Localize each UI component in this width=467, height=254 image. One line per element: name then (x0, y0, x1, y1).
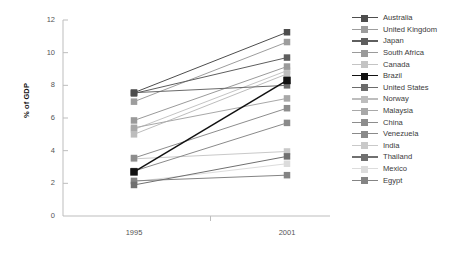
legend-item[interactable]: Egypt (352, 174, 467, 186)
legend-item-label: Japan (383, 36, 404, 45)
legend-swatch-icon (352, 25, 378, 34)
legend-item[interactable]: Australia (352, 12, 467, 24)
legend-item-label: Brazil (383, 71, 402, 80)
legend-item[interactable]: United Kingdom (352, 24, 467, 36)
legend-item-label: Thailand (383, 152, 412, 161)
legend-item[interactable]: Japan (352, 35, 467, 47)
legend-item-label: Canada (383, 60, 410, 69)
series-japan (131, 54, 291, 96)
legend-item[interactable]: Mexico (352, 163, 467, 175)
y-tick-label: 6 (31, 113, 55, 122)
series-norway (131, 71, 291, 138)
series-united-kingdom (131, 39, 291, 105)
y-ticks (63, 20, 68, 183)
plot-area: % of GDP 02468101219952001 (0, 0, 340, 254)
legend-item-label: Australia (383, 13, 413, 22)
legend-swatch-icon (352, 13, 378, 22)
legend-item-label: Egypt (383, 176, 402, 185)
chart-legend: AustraliaUnited KingdomJapanSouth Africa… (352, 12, 467, 186)
legend-swatch-icon (352, 48, 378, 57)
legend-swatch-icon (352, 164, 378, 173)
legend-item[interactable]: Thailand (352, 151, 467, 163)
legend-item[interactable]: India (352, 140, 467, 152)
legend-item[interactable]: Canada (352, 58, 467, 70)
legend-swatch-icon (352, 152, 378, 161)
y-tick-label: 10 (31, 48, 55, 57)
legend-swatch-icon (352, 106, 378, 115)
legend-item-label: China (383, 118, 403, 127)
y-tick-label: 4 (31, 146, 55, 155)
legend-item-label: United Kingdom (383, 25, 437, 34)
legend-item-label: United States (383, 83, 429, 92)
legend-item-label: Venezuela (383, 129, 418, 138)
legend-item[interactable]: United States (352, 82, 467, 94)
series-thailand (131, 153, 291, 188)
series-canada (131, 67, 291, 132)
legend-item-label: Mexico (383, 164, 407, 173)
series-egypt (131, 172, 291, 184)
y-tick-label: 2 (31, 178, 55, 187)
data-series (130, 29, 291, 188)
x-tick-label: 2001 (267, 228, 307, 237)
legend-item[interactable]: Malaysia (352, 105, 467, 117)
legend-swatch-icon (352, 71, 378, 80)
legend-item-label: Norway (383, 94, 409, 103)
legend-swatch-icon (352, 129, 378, 138)
legend-swatch-icon (352, 36, 378, 45)
y-tick-label: 8 (31, 80, 55, 89)
legend-item[interactable]: Venezuela (352, 128, 467, 140)
legend-swatch-icon (352, 83, 378, 92)
legend-item[interactable]: Norway (352, 93, 467, 105)
chart-figure: % of GDP 02468101219952001 AustraliaUnit… (0, 0, 467, 254)
legend-swatch-icon (352, 94, 378, 103)
legend-item[interactable]: China (352, 116, 467, 128)
legend-swatch-icon (352, 60, 378, 69)
legend-swatch-icon (352, 118, 378, 127)
legend-item[interactable]: South Africa (352, 47, 467, 59)
x-tick-label: 1995 (114, 228, 154, 237)
y-tick-label: 0 (31, 211, 55, 220)
legend-item-label: Malaysia (383, 106, 413, 115)
legend-swatch-icon (352, 176, 378, 185)
y-tick-label: 12 (31, 15, 55, 24)
legend-item-label: South Africa (383, 48, 424, 57)
legend-swatch-icon (352, 141, 378, 150)
legend-item-label: India (383, 141, 399, 150)
axes (63, 20, 330, 216)
legend-item[interactable]: Brazil (352, 70, 467, 82)
